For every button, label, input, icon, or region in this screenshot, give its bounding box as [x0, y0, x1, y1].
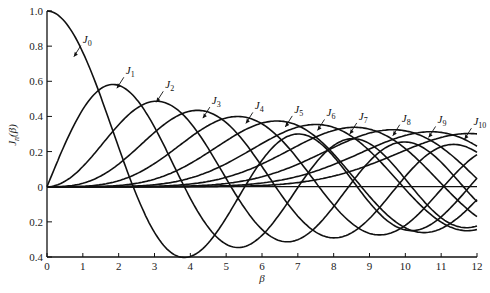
x-tick-label: 4 — [188, 260, 194, 272]
arrowhead-icon — [74, 52, 78, 57]
x-tick-label: 0 — [44, 260, 50, 272]
arrowhead-icon — [393, 131, 397, 136]
bessel-function-chart: 01234567891011121.00.80.60.40.200.20.4 J… — [0, 0, 490, 293]
x-tick-label: 12 — [472, 260, 483, 272]
curve-label-j2: J2 — [165, 78, 174, 93]
x-tick-label: 5 — [223, 260, 229, 272]
arrowhead-icon — [464, 134, 468, 139]
curve-label-j10: J10 — [473, 115, 486, 130]
x-tick-label: 11 — [436, 260, 447, 272]
y-tick-label: 0.6 — [29, 75, 43, 87]
y-tick-label: 0.4 — [29, 251, 43, 263]
arrowhead-icon — [318, 125, 322, 130]
curve-label-j6: J6 — [327, 106, 336, 121]
curve-label-j0: J0 — [83, 33, 92, 48]
y-tick-label: 1.0 — [29, 5, 43, 17]
x-tick-label: 3 — [152, 260, 158, 272]
x-tick-label: 7 — [295, 260, 301, 272]
arrowhead-icon — [350, 129, 354, 134]
x-tick-label: 6 — [259, 260, 265, 272]
curves — [47, 11, 477, 258]
arrowhead-icon — [203, 113, 207, 118]
y-tick-label: 0 — [38, 181, 44, 193]
y-tick-label: 0.2 — [29, 216, 43, 228]
curve-label-j9: J9 — [438, 113, 447, 128]
curve-label-j1: J1 — [126, 64, 135, 79]
curve-label-j3: J3 — [212, 94, 221, 109]
y-tick-label: 0.4 — [29, 110, 43, 122]
x-axis-title: β — [258, 272, 265, 284]
arrowhead-icon — [246, 118, 250, 123]
curve-j7 — [47, 127, 477, 216]
y-tick-label: 0.2 — [29, 146, 43, 158]
curve-labels: J0J1J2J3J4J5J6J7J8J9J10 — [74, 33, 486, 140]
y-axis-title: Jn(β) — [6, 124, 21, 146]
x-tick-label: 8 — [331, 260, 337, 272]
curve-label-j7: J7 — [359, 110, 368, 125]
x-tick-label: 2 — [116, 260, 122, 272]
arrowhead-icon — [117, 83, 121, 88]
curve-label-j5: J5 — [294, 103, 303, 118]
curve-label-j4: J4 — [255, 99, 264, 114]
x-tick-label: 1 — [80, 260, 86, 272]
y-tick-label: 0.8 — [29, 40, 43, 52]
arrowhead-icon — [429, 132, 433, 137]
curve-label-j8: J8 — [402, 112, 411, 127]
x-tick-label: 10 — [400, 260, 412, 272]
curve-j8 — [47, 130, 477, 187]
x-tick-label: 9 — [367, 260, 373, 272]
